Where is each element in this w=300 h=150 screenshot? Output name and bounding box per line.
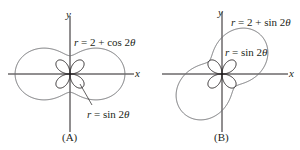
y-axis-label: y [217, 6, 223, 18]
y-axis-label: y [65, 8, 71, 20]
label-rose-curve: r = sin 2θ [87, 108, 130, 120]
x-axis-label: x [134, 67, 140, 79]
panel-b: x y r = 2 + sin 2θ r = sin 2θ (B) [162, 6, 294, 144]
polar-curves-figure: x y r = 2 + cos 2θ r = sin 2θ (A) x y r … [0, 0, 300, 150]
caption-b: (B) [214, 131, 229, 144]
caption-a: (A) [62, 131, 78, 144]
x-axis-label: x [288, 67, 294, 79]
leader-line [80, 84, 92, 105]
panel-a: x y r = 2 + cos 2θ r = sin 2θ (A) [8, 8, 140, 144]
label-outer-curve: r = 2 + cos 2θ [74, 36, 136, 48]
label-rose-curve: r = sin 2θ [225, 46, 268, 58]
label-outer-curve: r = 2 + sin 2θ [231, 16, 291, 28]
